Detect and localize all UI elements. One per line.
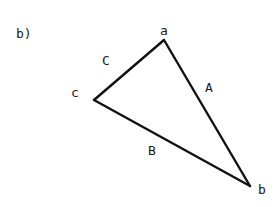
- edge-label-C: C: [102, 53, 110, 68]
- vertex-label-c: c: [71, 85, 79, 100]
- edge-A: [164, 40, 250, 186]
- edge-label-A: A: [205, 80, 213, 95]
- vertex-label-b: b: [258, 182, 266, 197]
- edge-B: [94, 100, 250, 186]
- vertex-label-a: a: [160, 23, 168, 38]
- figure-caption: b): [16, 26, 32, 41]
- triangle-diagram: b) a b c A B C: [0, 0, 277, 207]
- edge-label-B: B: [148, 143, 156, 158]
- edge-C: [94, 40, 164, 100]
